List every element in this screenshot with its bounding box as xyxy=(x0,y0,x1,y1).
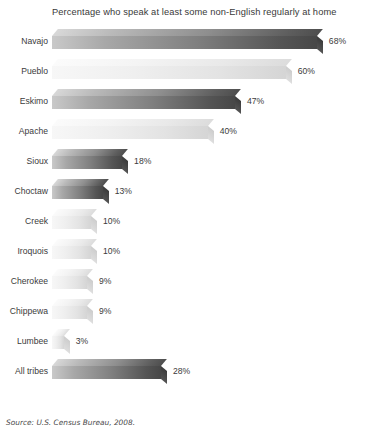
bar-front-face xyxy=(52,186,103,199)
value-label: 9% xyxy=(99,276,111,287)
bar-side-face-fill xyxy=(317,36,323,54)
bar-all-tribes xyxy=(52,359,161,385)
bar-top-face xyxy=(52,59,286,66)
bar-side-face xyxy=(64,336,70,349)
bar-front-face xyxy=(52,366,161,379)
category-label: Choctaw xyxy=(0,186,48,197)
bar-apache xyxy=(52,119,208,145)
bar-navajo xyxy=(52,29,317,55)
bar-side-face-fill xyxy=(103,186,109,204)
category-label: Navajo xyxy=(0,36,48,47)
bar-side-face-fill xyxy=(91,246,97,264)
bar-row: Choctaw13% xyxy=(0,178,376,208)
bar-chippewa xyxy=(52,299,87,325)
category-label: Pueblo xyxy=(0,66,48,77)
bar-top-face-fill xyxy=(52,149,128,156)
category-label: Apache xyxy=(0,126,48,137)
bar-cherokee xyxy=(52,269,87,295)
bar-side-face xyxy=(87,276,93,289)
category-label: Cherokee xyxy=(0,276,48,287)
value-label: 9% xyxy=(99,306,111,317)
bar-side-face xyxy=(91,216,97,229)
bar-side-face xyxy=(87,306,93,319)
bar-row: Pueblo60% xyxy=(0,58,376,88)
bar-side-face-fill xyxy=(161,366,167,384)
bar-top-face-fill xyxy=(52,119,214,126)
bar-side-face-fill xyxy=(122,156,128,174)
bar-side-face xyxy=(286,66,292,79)
bar-side-face xyxy=(317,36,323,49)
bar-front-face xyxy=(52,336,64,349)
bar-front-face xyxy=(52,246,91,259)
bar-side-face xyxy=(122,156,128,169)
bar-sioux xyxy=(52,149,122,175)
bar-top-face-fill xyxy=(52,59,292,66)
value-label: 28% xyxy=(173,366,190,377)
bar-top-face xyxy=(52,269,87,276)
bar-row: Creek10% xyxy=(0,208,376,238)
bar-top-face xyxy=(52,209,91,216)
bar-front-face xyxy=(52,276,87,289)
bar-front-face xyxy=(52,156,122,169)
value-label: 47% xyxy=(247,96,264,107)
bar-front-face xyxy=(52,96,235,109)
source-note: Source: U.S. Census Bureau, 2008. xyxy=(6,418,135,427)
bar-top-face xyxy=(52,329,64,336)
bar-side-face-fill xyxy=(91,216,97,234)
bar-row: Iroquois10% xyxy=(0,238,376,268)
bar-side-face xyxy=(208,126,214,139)
bar-front-face xyxy=(52,216,91,229)
bar-row: All tribes28% xyxy=(0,358,376,388)
category-label: Iroquois xyxy=(0,246,48,257)
value-label: 10% xyxy=(103,246,120,257)
category-label: Chippewa xyxy=(0,306,48,317)
value-label: 3% xyxy=(76,336,88,347)
bar-creek xyxy=(52,209,91,235)
bar-side-face-fill xyxy=(208,126,214,144)
bar-side-face-fill xyxy=(286,66,292,84)
bar-side-face xyxy=(161,366,167,379)
bar-side-face xyxy=(91,246,97,259)
chart-title: Percentage who speak at least some non-E… xyxy=(52,6,372,18)
bar-choctaw xyxy=(52,179,103,205)
bar-side-face-fill xyxy=(235,96,241,114)
plot-area: Navajo68%Pueblo60%Eskimo47%Apache40%Siou… xyxy=(0,28,376,410)
bar-top-face-fill xyxy=(52,29,323,36)
category-label: Creek xyxy=(0,216,48,227)
bar-top-face xyxy=(52,179,103,186)
bar-top-face xyxy=(52,149,122,156)
category-label: All tribes xyxy=(0,366,48,377)
value-label: 18% xyxy=(134,156,151,167)
category-label: Lumbee xyxy=(0,336,48,347)
value-label: 13% xyxy=(115,186,132,197)
bar-row: Sioux18% xyxy=(0,148,376,178)
bar-side-face-fill xyxy=(87,276,93,294)
category-label: Sioux xyxy=(0,156,48,167)
bar-top-face xyxy=(52,239,91,246)
value-label: 40% xyxy=(220,126,237,137)
bar-top-face-fill xyxy=(52,359,167,366)
bar-row: Lumbee3% xyxy=(0,328,376,358)
bar-pueblo xyxy=(52,59,286,85)
bar-chart: Percentage who speak at least some non-E… xyxy=(0,0,376,437)
bar-top-face xyxy=(52,29,317,36)
bar-row: Chippewa9% xyxy=(0,298,376,328)
bar-top-face xyxy=(52,299,87,306)
bar-row: Eskimo47% xyxy=(0,88,376,118)
bar-top-face-fill xyxy=(52,329,70,336)
bar-front-face xyxy=(52,306,87,319)
bar-side-face xyxy=(103,186,109,199)
bar-top-face xyxy=(52,89,235,96)
bar-lumbee xyxy=(52,329,64,355)
bar-front-face xyxy=(52,66,286,79)
bar-side-face xyxy=(235,96,241,109)
bar-front-face xyxy=(52,126,208,139)
bar-row: Navajo68% xyxy=(0,28,376,58)
value-label: 68% xyxy=(329,36,346,47)
bar-top-face-fill xyxy=(52,89,241,96)
bar-top-face xyxy=(52,119,208,126)
category-label: Eskimo xyxy=(0,96,48,107)
bar-side-face-fill xyxy=(87,306,93,324)
value-label: 10% xyxy=(103,216,120,227)
bar-top-face-fill xyxy=(52,179,108,186)
